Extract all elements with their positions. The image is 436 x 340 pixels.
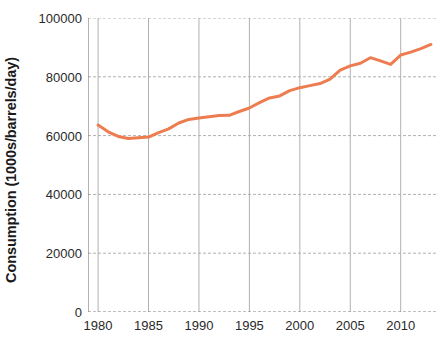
y-tick-label: 80000 xyxy=(18,69,82,84)
axis-tick-marks xyxy=(88,18,401,312)
y-tick-label: 20000 xyxy=(18,246,82,261)
plot-svg xyxy=(88,18,436,312)
x-tick-label: 2005 xyxy=(336,318,365,333)
plot-area xyxy=(88,18,436,312)
y-tick-label: 60000 xyxy=(18,128,82,143)
x-tick-label: 2010 xyxy=(386,318,415,333)
horizontal-gridlines xyxy=(88,18,436,253)
y-axis-title-text: Consumption (1000s/barrels/day) xyxy=(3,57,19,283)
x-tick-label: 1990 xyxy=(184,318,213,333)
y-tick-label: 100000 xyxy=(18,11,82,26)
x-tick-label: 1985 xyxy=(134,318,163,333)
x-axis-tick-labels: 1980198519901995200020052010 xyxy=(0,318,436,340)
x-tick-label: 1995 xyxy=(235,318,264,333)
x-tick-label: 2000 xyxy=(285,318,314,333)
y-axis-tick-labels: 020000400006000080000100000 xyxy=(18,0,82,340)
line-chart: Consumption (1000s/barrels/day) 02000040… xyxy=(0,0,436,340)
y-tick-label: 40000 xyxy=(18,187,82,202)
data-series-line xyxy=(98,44,431,138)
x-tick-label: 1980 xyxy=(84,318,113,333)
vertical-gridlines xyxy=(98,18,401,312)
